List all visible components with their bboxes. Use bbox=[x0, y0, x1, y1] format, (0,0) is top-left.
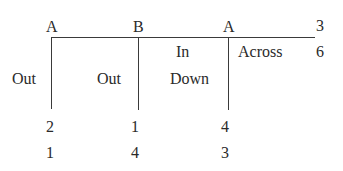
label-down: Down bbox=[170, 71, 209, 87]
value-r1-c1: 2 bbox=[46, 119, 54, 135]
label-across: Across bbox=[238, 44, 282, 60]
label-out-1: Out bbox=[12, 71, 36, 87]
top-label-a2: A bbox=[223, 19, 235, 35]
top-rule bbox=[51, 37, 315, 38]
top-label-b: B bbox=[133, 19, 144, 35]
value-r2-c3: 3 bbox=[221, 145, 229, 161]
label-out-2: Out bbox=[97, 71, 121, 87]
value-r2-c2: 4 bbox=[131, 145, 139, 161]
value-r1-c2: 1 bbox=[131, 119, 139, 135]
column-divider-1 bbox=[51, 37, 52, 109]
value-r1-c3: 4 bbox=[221, 119, 229, 135]
column-divider-2 bbox=[138, 37, 139, 110]
label-6: 6 bbox=[316, 44, 324, 60]
value-r2-c1: 1 bbox=[46, 145, 54, 161]
column-divider-3 bbox=[228, 37, 229, 110]
top-label-a1: A bbox=[46, 19, 58, 35]
top-label-3: 3 bbox=[316, 18, 324, 34]
label-in: In bbox=[176, 44, 189, 60]
